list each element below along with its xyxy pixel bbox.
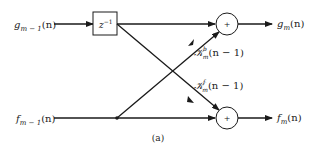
output-f-label: fm(n): [276, 112, 302, 126]
backward-coef-label: 𝒦bm(n − 1): [194, 45, 244, 60]
figure-caption: (a): [152, 133, 164, 143]
forward-coef-label: 𝒦fm(n − 1): [194, 78, 243, 93]
forward-coef-path: [117, 24, 219, 110]
lattice-stage-diagram: gm − 1(n) z−1 + gm(n) fm − 1(n) 𝒦bm(n − …: [0, 0, 317, 149]
bottom-adder-plus-icon: +: [224, 114, 231, 123]
backward-mid-arrow-icon: [188, 39, 194, 46]
top-adder-plus-icon: +: [224, 20, 231, 29]
input-f-label: fm − 1(n): [15, 113, 55, 127]
input-g-label: gm − 1(n): [14, 19, 56, 33]
forward-mid-arrow-icon: [187, 96, 194, 103]
output-g-label: gm(n): [277, 18, 304, 32]
